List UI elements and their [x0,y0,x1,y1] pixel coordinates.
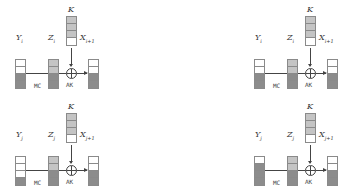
y-label: Yi [255,34,262,45]
state-cell-light [49,60,58,67]
state-cell-white [328,60,337,67]
state-cell-white [255,60,264,67]
state-cell-white [16,67,25,74]
mc-label: MC [34,83,41,89]
state-cell-dark [328,171,337,178]
state-cell-white [306,38,315,45]
state-cell-dark [89,171,98,178]
key-arrowhead [308,161,312,164]
state-cell-light [67,17,76,24]
panel-top-left: Yi MC Zi K AK Xi+1 [14,0,114,98]
state-cell-light [67,114,76,121]
xor-icon [305,68,316,79]
x-state-column [327,59,338,89]
key-arrowhead [308,64,312,67]
state-cell-dark [255,81,264,88]
state-cell-light [306,114,315,121]
x-label: Xj+1 [319,131,334,142]
state-cell-light [306,17,315,24]
state-cell-light [288,164,297,171]
x-state-column [327,156,338,186]
state-cell-dark [288,171,297,178]
z-label: Zj [287,131,294,142]
ak-label: AK [305,179,312,185]
mc-label: MC [273,180,280,186]
state-cell-light [306,121,315,128]
state-cell-light [306,128,315,135]
k-label: K [68,103,74,111]
y-label: Yj [16,131,23,142]
z-label: Zi [48,34,55,45]
state-cell-light [49,67,58,74]
x-state-column [88,156,99,186]
state-cell-dark [255,171,264,178]
state-cell-light [288,67,297,74]
state-cell-light [49,164,58,171]
state-cell-dark [288,178,297,185]
z-label: Zi [287,34,294,45]
k-key-column [66,113,77,143]
panel-top-right: Yi MC Zi K AK Xi+1 [253,0,342,98]
state-cell-white [89,164,98,171]
panel-bottom-left: Yj MC Zj K AK Xj+1 [14,97,114,195]
state-cell-white [89,60,98,67]
state-cell-dark [288,81,297,88]
z-state-column [48,59,59,89]
ak-label: AK [66,82,73,88]
state-cell-white [328,164,337,171]
state-cell-light [306,24,315,31]
state-cell-white [328,157,337,164]
state-cell-white [89,157,98,164]
state-cell-white [16,164,25,171]
state-cell-light [288,60,297,67]
y-state-column [15,156,26,186]
x-label: Xj+1 [80,131,95,142]
x-label: Xi+1 [319,34,334,45]
state-cell-white [67,135,76,142]
y-label: Yi [16,34,23,45]
xor-icon [305,165,316,176]
mc-label: MC [273,83,280,89]
x-state-column [88,59,99,89]
state-cell-dark [255,164,264,171]
state-cell-white [67,38,76,45]
key-arrowhead [69,64,73,67]
state-cell-white [255,67,264,74]
state-cell-dark [16,81,25,88]
x-label: Xi+1 [80,34,95,45]
state-cell-dark [89,178,98,185]
state-cell-light [306,31,315,38]
state-cell-white [255,157,264,164]
state-cell-white [16,60,25,67]
state-cell-light [67,128,76,135]
panel-bottom-right: Yj MC Zj K AK Xj+1 [253,97,342,195]
state-cell-light [67,31,76,38]
y-state-column [254,156,265,186]
state-cell-dark [49,171,58,178]
state-cell-dark [49,74,58,81]
state-cell-dark [328,81,337,88]
state-cell-dark [89,74,98,81]
k-label: K [307,6,313,14]
state-cell-white [16,171,25,178]
state-cell-dark [16,178,25,185]
z-label: Zj [48,131,55,142]
ak-label: AK [66,179,73,185]
z-state-column [287,59,298,89]
state-cell-dark [255,178,264,185]
z-state-column [48,156,59,186]
state-cell-dark [255,74,264,81]
k-key-column [66,16,77,46]
xor-icon [66,68,77,79]
state-cell-dark [89,81,98,88]
xor-icon [66,165,77,176]
z-state-column [287,156,298,186]
y-label: Yj [255,131,262,142]
state-cell-white [89,67,98,74]
state-cell-white [16,157,25,164]
state-cell-light [67,121,76,128]
state-cell-dark [49,81,58,88]
ak-label: AK [305,82,312,88]
state-cell-dark [16,74,25,81]
state-cell-dark [49,178,58,185]
